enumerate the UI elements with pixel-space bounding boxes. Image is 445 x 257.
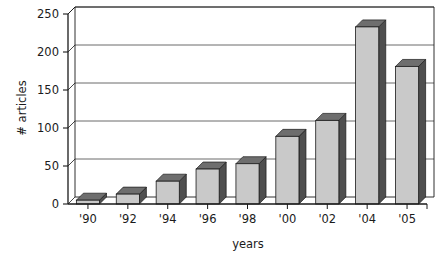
y-tick-label: 100 — [37, 121, 59, 135]
x-tick-label: '94 — [159, 212, 177, 226]
bar-front-face — [116, 194, 139, 204]
bar — [156, 174, 186, 204]
bar-side-face — [419, 59, 426, 204]
y-axis-title: # articles — [15, 80, 29, 135]
x-tick-label: '02 — [318, 212, 336, 226]
bar — [395, 59, 425, 204]
x-axis-title: years — [232, 237, 264, 251]
y-tick-label: 50 — [44, 159, 59, 173]
y-tick-label: 150 — [37, 83, 59, 97]
x-tick-label: '04 — [358, 212, 376, 226]
bar-side-face — [259, 157, 266, 204]
bar-front-face — [395, 66, 418, 204]
y-tick-label: 200 — [37, 45, 59, 59]
bar-side-face — [379, 20, 386, 204]
x-tick-label: '05 — [398, 212, 416, 226]
x-tick-label: '98 — [239, 212, 257, 226]
x-tick-label: '96 — [199, 212, 217, 226]
x-tick-label: '90 — [79, 212, 97, 226]
x-tick-label: '00 — [278, 212, 296, 226]
y-tick-label: 0 — [52, 197, 59, 211]
bar — [276, 129, 306, 204]
bar — [236, 157, 266, 204]
bar-front-face — [236, 164, 259, 204]
bar — [196, 162, 226, 204]
bar-side-face — [339, 113, 346, 204]
bar — [116, 187, 146, 204]
bar-front-face — [156, 181, 179, 204]
bar-chart: 250200150100500 '90'92'94'96'98'00'02'04… — [0, 0, 445, 257]
bar-front-face — [356, 27, 379, 204]
bar-side-face — [299, 129, 306, 204]
bar-front-face — [316, 120, 339, 204]
bar — [356, 20, 386, 204]
bar-front-face — [276, 136, 299, 204]
y-tick-label: 250 — [37, 7, 59, 21]
bar — [316, 113, 346, 204]
chart-canvas: 250200150100500 '90'92'94'96'98'00'02'04… — [0, 0, 445, 257]
x-tick-label: '92 — [119, 212, 137, 226]
bar-front-face — [196, 169, 219, 204]
